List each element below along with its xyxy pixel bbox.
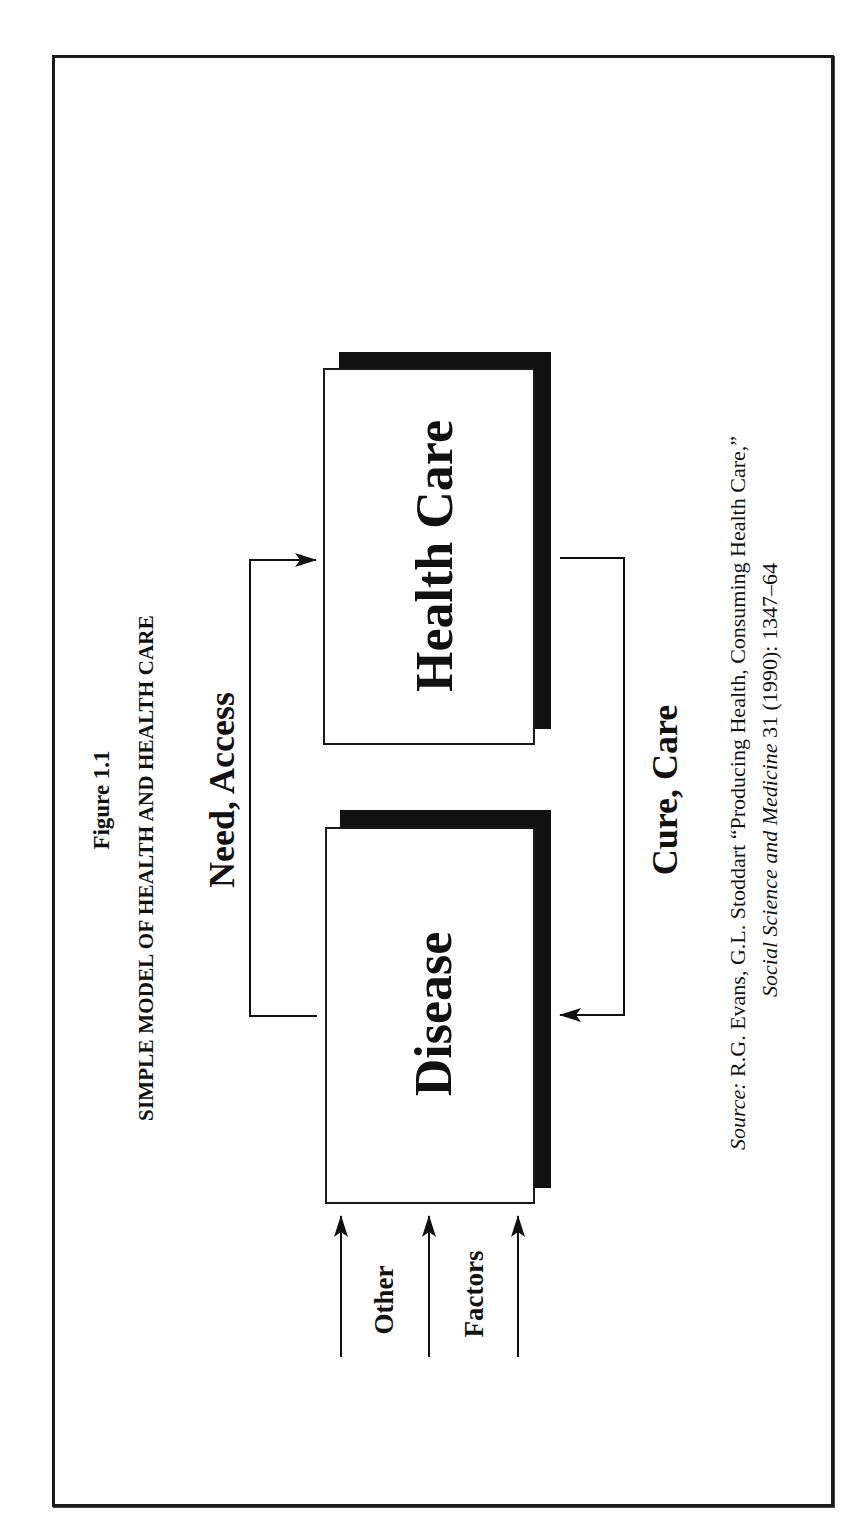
arrow-need-access bbox=[250, 560, 317, 1016]
label-factors: Factors bbox=[459, 1251, 490, 1338]
source-line-1: Source: R.G. Evans, G.L. Stoddart “Produ… bbox=[725, 436, 751, 1150]
label-other: Other bbox=[369, 1266, 400, 1335]
source-line-2: Social Science and Medicine 31 (1990): 1… bbox=[757, 563, 783, 997]
source-volume-pages: 31 (1990): 1347–64 bbox=[757, 563, 782, 743]
edge-label-cure-care: Cure, Care bbox=[644, 705, 686, 876]
source-authors-title: R.G. Evans, G.L. Stoddart “Producing Hea… bbox=[725, 436, 750, 1082]
source-journal: Social Science and Medicine bbox=[757, 743, 782, 997]
arrow-cure-care bbox=[560, 558, 624, 1015]
source-prefix: Source: bbox=[725, 1082, 750, 1150]
